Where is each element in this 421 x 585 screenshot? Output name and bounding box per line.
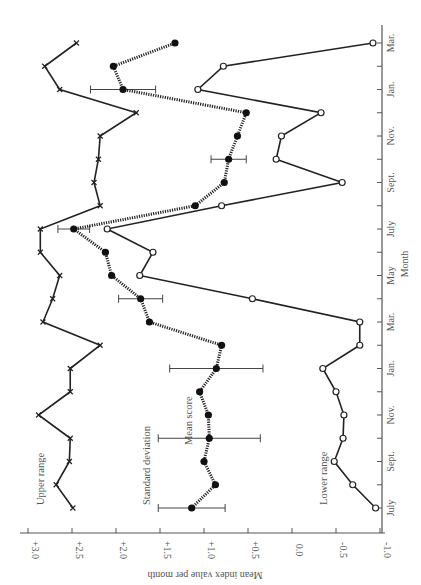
open-marker xyxy=(350,482,356,488)
filled-marker xyxy=(119,86,126,93)
annotations: Upper rangeStandard deviationMean scoreL… xyxy=(35,396,329,505)
mean-score-label: Mean score xyxy=(183,396,194,445)
series-markers xyxy=(36,39,379,511)
lower-range-label: Lower range xyxy=(318,451,329,505)
sd-label: Standard deviation xyxy=(141,425,152,505)
filled-marker xyxy=(218,342,225,349)
open-marker xyxy=(195,87,201,93)
filled-marker xyxy=(110,63,117,70)
open-marker xyxy=(219,203,225,209)
x-marker xyxy=(36,413,41,418)
value-axis-label: Mean index value per month xyxy=(148,570,263,581)
open-marker xyxy=(273,156,279,162)
x-marker xyxy=(54,482,59,487)
filled-marker xyxy=(212,481,219,488)
filled-marker xyxy=(70,225,77,232)
month-tick-label: Mar. xyxy=(385,34,396,53)
x-marker xyxy=(42,64,47,69)
open-marker xyxy=(339,180,345,186)
month-tick-label: July xyxy=(385,500,396,517)
filled-marker xyxy=(225,156,232,163)
filled-marker xyxy=(234,132,241,139)
x-marker xyxy=(70,506,75,511)
filled-marker xyxy=(200,458,207,465)
open-marker xyxy=(278,133,284,139)
open-marker xyxy=(318,110,324,116)
month-tick-label: Nov. xyxy=(385,126,396,145)
open-marker xyxy=(341,412,347,418)
value-tick-label: +3.0 xyxy=(30,541,41,559)
open-marker xyxy=(249,296,255,302)
month-tick-label: Jan. xyxy=(385,361,396,377)
open-marker xyxy=(137,273,143,279)
value-tick-label: 0.0 xyxy=(294,544,305,557)
filled-marker xyxy=(188,504,195,511)
open-marker xyxy=(331,459,337,465)
month-tick-label: Mar. xyxy=(385,313,396,332)
filled-marker xyxy=(196,388,203,395)
filled-marker xyxy=(102,249,109,256)
filled-marker xyxy=(213,365,220,372)
value-tick-label: +2.5 xyxy=(74,541,85,559)
open-marker xyxy=(357,342,363,348)
open-marker xyxy=(373,505,379,511)
x-marker xyxy=(74,41,79,46)
month-axis-label: Month xyxy=(399,251,410,278)
filled-marker xyxy=(146,318,153,325)
filled-marker xyxy=(221,179,228,186)
filled-marker xyxy=(108,272,115,279)
open-marker xyxy=(340,435,346,441)
open-marker xyxy=(220,63,226,69)
value-tick-label: -0.5 xyxy=(338,542,349,558)
open-marker xyxy=(150,249,156,255)
value-tick-label: +1.5 xyxy=(162,541,173,559)
month-tick-label: May xyxy=(385,266,396,284)
filled-marker xyxy=(171,39,178,46)
open-marker xyxy=(357,319,363,325)
month-tick-label: July xyxy=(385,221,396,238)
month-tick-label: Sept. xyxy=(385,451,396,471)
open-marker xyxy=(320,366,326,372)
value-tick-label: +0.5 xyxy=(250,541,261,559)
filled-marker xyxy=(137,295,144,302)
month-tick-label: Jan. xyxy=(385,82,396,98)
open-marker xyxy=(370,40,376,46)
filled-marker xyxy=(206,435,213,442)
value-tick-label: -1.0 xyxy=(382,542,393,558)
series-upper-range xyxy=(39,43,137,508)
filled-marker xyxy=(243,109,250,116)
month-tick-label: Sept. xyxy=(385,172,396,192)
open-marker xyxy=(104,226,110,232)
filled-marker xyxy=(205,411,212,418)
open-marker xyxy=(333,389,339,395)
error-bars xyxy=(58,86,263,513)
value-tick-label: +2.0 xyxy=(118,541,129,559)
axes: +3.0+2.5+2.0+1.5+1.0+0.50.0-0.5-1.0Mean … xyxy=(20,25,410,581)
rotated-line-chart: +3.0+2.5+2.0+1.5+1.0+0.50.0-0.5-1.0Mean … xyxy=(0,0,421,585)
upper-range-label: Upper range xyxy=(35,452,46,505)
filled-marker xyxy=(192,202,199,209)
month-tick-label: Nov. xyxy=(385,405,396,424)
value-tick-label: +1.0 xyxy=(206,541,217,559)
